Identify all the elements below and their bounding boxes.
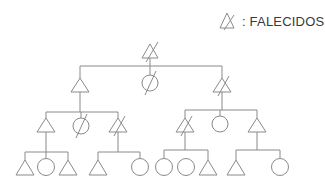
node-g3-b-deceased-female bbox=[73, 114, 89, 138]
node-g4-d-male bbox=[89, 160, 107, 175]
node-g3-e-female bbox=[212, 116, 228, 132]
node-g2-b-deceased-female bbox=[142, 71, 158, 95]
node-g3-f-male bbox=[248, 118, 266, 132]
node-g4-e-female bbox=[132, 159, 149, 176]
node-g4-b-female bbox=[38, 159, 55, 176]
node-g4-i-male bbox=[227, 160, 245, 175]
node-g3-a-male bbox=[37, 118, 55, 132]
node-g4-a-male bbox=[16, 160, 34, 175]
node-g2-a-male bbox=[71, 78, 89, 92]
node-g4-g-female bbox=[178, 159, 195, 176]
node-g4-h-male bbox=[199, 160, 217, 175]
node-g4-j-female bbox=[272, 159, 289, 176]
node-g4-c-male bbox=[59, 160, 77, 175]
family-tree-diagram bbox=[0, 0, 325, 187]
node-g4-f-female bbox=[156, 159, 173, 176]
connector-lines bbox=[25, 58, 280, 160]
